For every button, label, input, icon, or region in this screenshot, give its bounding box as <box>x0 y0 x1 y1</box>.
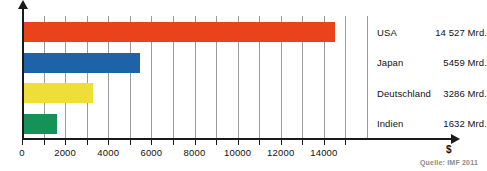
x-tick <box>108 140 109 145</box>
bar-deutschland <box>22 83 93 103</box>
legend-label-indien: Indien <box>377 118 403 129</box>
x-tick <box>22 140 23 145</box>
x-tick <box>130 140 131 145</box>
legend-label-usa: USA <box>377 27 397 38</box>
x-tick <box>259 140 260 145</box>
y-axis-line <box>22 6 24 140</box>
legend-row: Indien1632 Mrd. <box>377 117 487 131</box>
legend-row: Japan5459 Mrd. <box>377 56 487 70</box>
legend-value-indien: 1632 Mrd. <box>443 118 487 129</box>
x-tick <box>216 140 217 145</box>
x-tick <box>345 140 346 145</box>
x-tick-label: 14000 <box>310 147 337 158</box>
x-tick <box>324 140 325 145</box>
gridline <box>345 16 346 138</box>
x-tick-label: 6000 <box>140 147 162 158</box>
x-tick-label: 8000 <box>184 147 206 158</box>
x-tick-label: 2000 <box>54 147 76 158</box>
x-tick <box>238 140 239 145</box>
x-tick <box>195 140 196 145</box>
x-tick-label: 12000 <box>267 147 294 158</box>
legend-value-deutschland: 3286 Mrd. <box>443 88 487 99</box>
x-tick <box>65 140 66 145</box>
x-tick <box>173 140 174 145</box>
legend-row: Deutschland3286 Mrd. <box>377 86 487 100</box>
x-axis-arrow-icon <box>451 134 460 144</box>
legend-row: USA14 527 Mrd. <box>377 25 487 39</box>
x-tick <box>151 140 152 145</box>
bar-indien <box>22 114 57 134</box>
x-tick <box>302 140 303 145</box>
legend-value-japan: 5459 Mrd. <box>443 57 487 68</box>
bar-usa <box>22 22 335 42</box>
x-tick-label: 0 <box>19 147 24 158</box>
legend-value-usa: 14 527 Mrd. <box>435 27 487 38</box>
source-note: Quelle: IMF 2011 <box>420 159 478 166</box>
x-tick <box>87 140 88 145</box>
x-tick <box>281 140 282 145</box>
plot-area <box>22 16 367 138</box>
x-axis-unit-label: $ <box>446 144 452 155</box>
x-tick <box>44 140 45 145</box>
gridline <box>367 16 368 138</box>
bar-japan <box>22 53 140 73</box>
x-tick-label: 10000 <box>224 147 251 158</box>
legend-label-deutschland: Deutschland <box>377 88 431 99</box>
legend-label-japan: Japan <box>377 57 403 68</box>
bar-chart: 02000400060008000100001200014000 $ USA14… <box>0 0 487 171</box>
x-tick-label: 4000 <box>97 147 119 158</box>
